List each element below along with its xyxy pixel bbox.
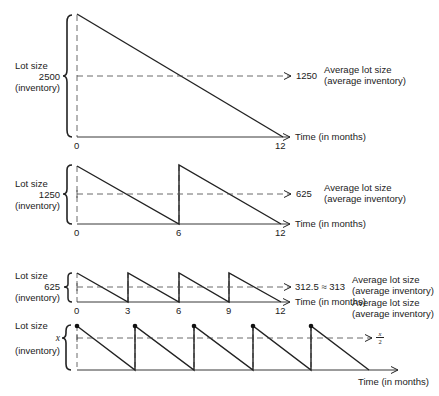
p1-avg-label-1: Average lot size: [324, 64, 391, 75]
p3-tick-3: 3: [125, 305, 130, 316]
p4-avg-denominator: 2: [376, 338, 384, 345]
p4-avg-numerator: x: [376, 330, 384, 338]
p2-ylabel-1: Lot size: [15, 178, 48, 189]
inventory-line-4: [77, 326, 369, 370]
p3-avg-value: 312.5 ≈ 313: [295, 281, 345, 292]
p1-tick-12: 12: [275, 140, 286, 151]
p2-xaxis-label: Time (in months): [295, 218, 366, 229]
p2-tick-12: 12: [275, 227, 286, 238]
p2-avg-label-1: Average lot size: [324, 182, 391, 193]
p2-tick-0: 0: [74, 227, 79, 238]
p2-y-value: 1250: [25, 189, 60, 200]
p2-avg-value: 625: [296, 188, 312, 199]
p4-xaxis-label: Time (in months): [358, 376, 429, 387]
p2-avg-label-2: (average inventory): [324, 193, 406, 204]
p3-tick-6: 6: [176, 305, 181, 316]
p4-avg-label-2: (average inventory): [352, 308, 434, 319]
p3-avg-label-1: Average lot size: [352, 274, 419, 285]
panel-4-chart: [62, 324, 398, 370]
p4-ylabel-1: Lot size: [15, 320, 48, 331]
brace-4: [62, 325, 71, 370]
p1-ylabel-2: (inventory): [15, 82, 60, 93]
brace-1: [63, 15, 72, 137]
inventory-line-2: [77, 165, 281, 224]
p3-ylabel-2: (inventory): [15, 292, 60, 303]
p1-avg-value: 1250: [296, 70, 317, 81]
p1-ylabel-1: Lot size: [15, 60, 48, 71]
p3-tick-9: 9: [226, 305, 231, 316]
p1-avg-label-2: (average inventory): [324, 75, 406, 86]
panel-1-chart: [63, 14, 291, 137]
p4-y-value: x: [25, 333, 60, 344]
p3-avg-label-2: (average inventory): [352, 285, 434, 296]
brace-3: [64, 273, 72, 302]
p1-y-value: 2500: [25, 71, 60, 82]
inventory-line-1: [77, 14, 283, 137]
p3-ylabel-1: Lot size: [15, 270, 48, 281]
p1-xaxis-label: Time (in months): [295, 131, 366, 142]
p1-tick-0: 0: [74, 140, 79, 151]
p3-y-value: 625: [25, 281, 60, 292]
p2-ylabel-2: (inventory): [15, 200, 60, 211]
p4-avg-fraction: x 2: [376, 330, 384, 345]
p3-tick-12: 12: [275, 305, 286, 316]
brace-2: [63, 165, 72, 224]
panel-3-chart: [64, 273, 291, 302]
p4-avg-label-1: Average lot size: [352, 297, 419, 308]
p3-tick-0: 0: [74, 305, 79, 316]
p2-tick-6: 6: [176, 227, 181, 238]
p4-ylabel-2: (inventory): [15, 345, 60, 356]
panel-2-chart: [63, 165, 291, 224]
